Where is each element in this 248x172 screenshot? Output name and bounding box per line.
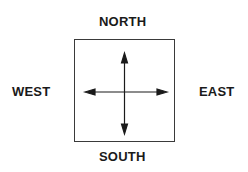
arrow-right-icon <box>157 89 167 95</box>
compass-arrows-icon <box>0 0 248 172</box>
arrow-up-icon <box>122 53 128 63</box>
arrow-left-icon <box>85 89 95 95</box>
arrow-down-icon <box>122 124 128 134</box>
